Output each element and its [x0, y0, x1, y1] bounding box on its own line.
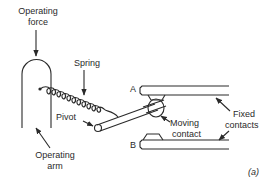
svg-text:contacts: contacts: [225, 120, 259, 130]
fixed-contacts-label: Fixed contacts: [225, 109, 259, 130]
contact-b-label: B: [130, 140, 136, 150]
svg-text:Moving: Moving: [170, 118, 199, 128]
svg-text:Fixed: Fixed: [233, 109, 255, 119]
svg-text:force: force: [28, 17, 48, 27]
spring-label: Spring: [74, 58, 100, 68]
svg-text:Pivot: Pivot: [56, 112, 77, 122]
fixed-contact-a: [140, 86, 229, 100]
operating-arm-arrow: [36, 128, 50, 148]
spring: [38, 87, 118, 117]
operating-arm-label: Operating arm: [35, 150, 75, 171]
svg-text:arm: arm: [47, 161, 63, 171]
contact-a-label: A: [130, 84, 136, 94]
svg-text:Operating: Operating: [18, 6, 58, 16]
fixed-contact-b-arrow: [219, 131, 229, 140]
fixed-contact-a-arrow: [216, 98, 230, 111]
svg-text:Operating: Operating: [35, 150, 75, 160]
svg-text:contact: contact: [172, 129, 202, 139]
moving-contact-arrow: [161, 116, 170, 122]
operating-arm: [22, 60, 51, 129]
pivot-label: Pivot: [56, 112, 77, 122]
pivot-arrow: [83, 121, 93, 126]
operating-force-label: Operating force: [18, 6, 58, 27]
moving-contact-label: Moving contact: [170, 118, 202, 139]
panel-label: (a): [248, 167, 259, 177]
switch-diagram: Operating force Spring Pivot Operating a…: [0, 0, 276, 182]
svg-text:Spring: Spring: [74, 58, 100, 68]
